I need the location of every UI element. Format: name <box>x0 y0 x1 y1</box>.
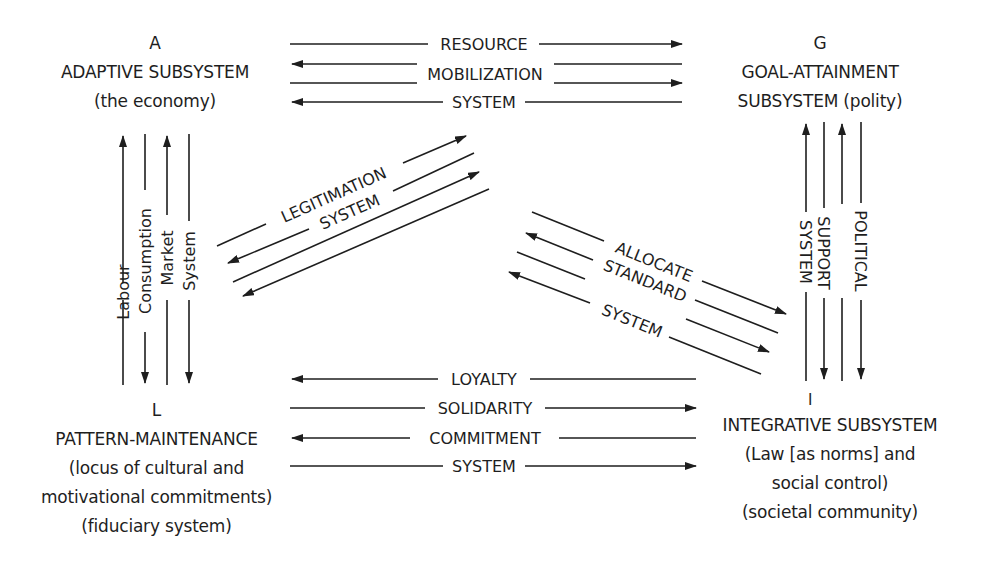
label-mobilization: MOBILIZATION <box>427 65 542 84</box>
label-commitment: COMMITMENT <box>429 429 541 448</box>
label-political: POLITICAL <box>851 210 870 291</box>
label-labour: Labour <box>114 264 133 320</box>
label-system-gi: SYSTEM <box>796 220 815 284</box>
label-solidarity: SOLIDARITY <box>438 399 533 418</box>
label-loyalty: LOYALTY <box>451 370 517 389</box>
label-system-li: SYSTEM <box>452 457 516 476</box>
interchange-a-i <box>509 212 786 374</box>
label-support: SUPPORT <box>814 216 833 290</box>
arrows-layer: RESOURCE MOBILIZATION SYSTEM Labour Cons… <box>0 0 984 565</box>
label-system-ai: SYSTEM <box>599 300 665 342</box>
label-consumption: Consumption <box>136 208 155 314</box>
agil-diagram: A ADAPTIVE SUBSYSTEM (the economy) G GOA… <box>0 0 984 565</box>
arrow-down-right-icon <box>702 281 786 314</box>
label-market: Market <box>158 231 177 286</box>
label-resource: RESOURCE <box>440 35 527 54</box>
arrow-up-right-icon <box>403 136 466 163</box>
label-system-al: System <box>180 231 199 291</box>
interchange-l-i <box>290 379 696 466</box>
label-system-ag: SYSTEM <box>452 93 516 112</box>
arrow-up-left-icon <box>526 233 593 260</box>
arrow-down-left-icon <box>228 229 309 263</box>
